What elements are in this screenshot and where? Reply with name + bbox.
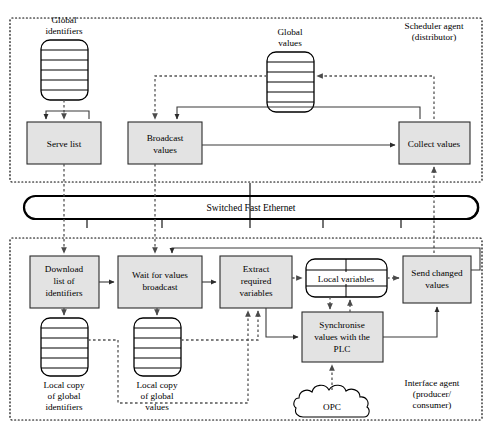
flow-synchronise-to-send [383, 307, 437, 337]
svg-text:identifiers: identifiers [45, 402, 83, 412]
svg-text:identifiers: identifiers [45, 26, 83, 36]
svg-text:PLC: PLC [334, 344, 351, 354]
svg-text:values: values [153, 145, 177, 155]
svg-text:Synchronise: Synchronise [319, 320, 364, 330]
flow-collect-to-globalvalues [317, 76, 434, 119]
svg-text:Extract: Extract [243, 264, 270, 274]
svg-text:values: values [278, 38, 302, 48]
network-bus: Switched Fast Ethernet [24, 196, 479, 219]
store-global-values: Global values [267, 27, 314, 112]
svg-text:variables: variables [239, 288, 273, 298]
svg-text:OPC: OPC [323, 402, 341, 412]
process-download-list-of-identifiers[interactable]: Download list of identifiers [30, 256, 99, 308]
process-extract-required-variables[interactable]: Extract required variables [220, 256, 292, 308]
svg-text:values: values [425, 280, 449, 290]
svg-text:required: required [241, 276, 272, 286]
scheduler-agent-label: Scheduler agent (distributor) [405, 21, 464, 42]
process-broadcast-values[interactable]: Broadcast values [128, 122, 202, 164]
store-local-copy-of-global-values: Local copy of global values [134, 318, 181, 412]
process-synchronise-values-with-the-plc[interactable]: Synchronise values with the PLC [302, 312, 383, 362]
flow-localvalues-to-extract [181, 311, 258, 340]
svg-text:Broadcast: Broadcast [147, 133, 184, 143]
svg-text:Interface agent: Interface agent [405, 378, 460, 388]
flow-extract-to-synchronise [266, 308, 298, 337]
process-serve-list[interactable]: Serve list [27, 122, 101, 164]
architecture-diagram: Scheduler agent (distributor) Interface … [0, 0, 492, 430]
svg-text:Send changed: Send changed [411, 268, 463, 278]
svg-text:Download: Download [45, 264, 84, 274]
store-local-variables: Local variables [306, 259, 387, 297]
store-global-identifiers: Global identifiers [41, 15, 88, 100]
flow-servelist-selfloop [46, 111, 89, 119]
svg-text:of global: of global [48, 391, 81, 401]
svg-text:broadcast: broadcast [142, 282, 178, 292]
svg-text:Local copy: Local copy [136, 380, 177, 390]
process-collect-values[interactable]: Collect values [399, 122, 470, 164]
svg-text:Collect values: Collect values [408, 139, 461, 149]
svg-text:Local copy: Local copy [43, 380, 84, 390]
svg-text:identifiers: identifiers [45, 288, 83, 298]
svg-text:Scheduler agent: Scheduler agent [405, 21, 464, 31]
process-send-changed-values[interactable]: Send changed values [403, 256, 471, 303]
process-wait-for-values-broadcast[interactable]: Wait for values broadcast [118, 256, 202, 308]
svg-text:Global: Global [277, 27, 302, 37]
svg-text:consumer): consumer) [413, 400, 452, 410]
store-local-copy-of-global-identifiers: Local copy of global identifiers [41, 318, 88, 412]
svg-text:of global: of global [141, 391, 174, 401]
svg-text:Serve list: Serve list [47, 139, 82, 149]
svg-text:values with the: values with the [314, 332, 370, 342]
svg-text:(distributor): (distributor) [412, 32, 456, 42]
svg-text:Global: Global [51, 15, 76, 25]
svg-text:Switched Fast Ethernet: Switched Fast Ethernet [207, 202, 296, 213]
svg-text:list of: list of [53, 276, 75, 286]
svg-text:Local variables: Local variables [318, 274, 375, 284]
svg-text:Wait for values: Wait for values [132, 270, 188, 280]
flow-globalvalues-to-broadcast [155, 76, 267, 119]
svg-text:(producer/: (producer/ [413, 389, 452, 399]
interface-agent-label: Interface agent (producer/ consumer) [405, 378, 460, 410]
